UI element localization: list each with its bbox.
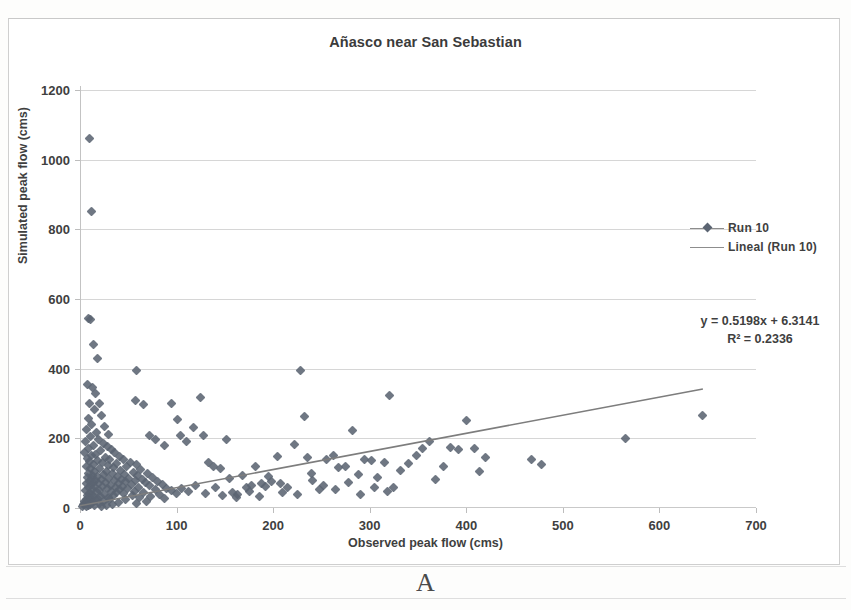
gridline-y <box>80 229 756 230</box>
scatter-point <box>331 484 341 494</box>
tick-x <box>756 508 757 513</box>
y-tick-label: 1000 <box>41 152 70 167</box>
tick-y <box>75 369 80 370</box>
tick-x <box>273 508 274 513</box>
scatter-point <box>167 399 177 409</box>
x-tick-label: 700 <box>745 518 767 533</box>
tick-y <box>75 299 80 300</box>
gridline-y <box>80 90 756 91</box>
scatter-point <box>379 457 389 467</box>
tick-x <box>659 508 660 513</box>
plot-area: 0200400600800100012000100200300400500600… <box>80 90 756 508</box>
scatter-point <box>196 392 206 402</box>
scatter-point <box>454 445 464 455</box>
scatter-point <box>251 462 261 472</box>
legend-item-lineal-run-10[interactable]: Lineal (Run 10) <box>690 237 817 256</box>
scatter-point <box>411 451 421 461</box>
x-axis-title: Observed peak flow (cms) <box>0 536 851 550</box>
scatter-point <box>160 494 170 504</box>
scatter-point <box>201 488 211 498</box>
legend-label-lineal-run-10: Lineal (Run 10) <box>728 240 817 254</box>
scatter-point <box>370 483 380 493</box>
gridline-y <box>80 369 756 370</box>
scan-rule <box>6 598 846 599</box>
scatter-point <box>189 423 199 433</box>
scatter-point <box>303 453 313 463</box>
x-tick-label: 100 <box>166 518 188 533</box>
gridline-y <box>80 160 756 161</box>
scatter-point <box>372 472 382 482</box>
y-tick-label: 200 <box>48 431 70 446</box>
scatter-point <box>210 483 220 493</box>
scatter-point <box>272 451 282 461</box>
scatter-point <box>86 315 96 325</box>
scatter-point <box>85 134 95 144</box>
scatter-point <box>461 416 471 426</box>
y-tick-label: 0 <box>63 501 70 516</box>
tick-x <box>563 508 564 513</box>
x-tick-label: 400 <box>455 518 477 533</box>
scatter-point <box>289 440 299 450</box>
scatter-point <box>222 434 232 444</box>
scatter-point <box>367 456 377 466</box>
scatter-point <box>403 458 413 468</box>
scatter-point <box>353 470 363 480</box>
tick-x <box>370 508 371 513</box>
y-tick-label: 1200 <box>41 83 70 98</box>
tick-x <box>177 508 178 513</box>
scatter-point <box>621 433 631 443</box>
scatter-point <box>92 353 102 363</box>
scatter-point <box>299 412 309 422</box>
scatter-point <box>344 478 354 488</box>
tick-y <box>75 438 80 439</box>
scan-rule <box>6 566 846 567</box>
scatter-point <box>481 453 491 463</box>
scatter-point <box>96 411 106 421</box>
x-tick-label: 600 <box>649 518 671 533</box>
scatter-point <box>225 474 235 484</box>
scatter-point <box>150 435 160 445</box>
x-axis-line <box>80 507 756 508</box>
tick-y <box>75 229 80 230</box>
scatter-point <box>215 464 225 474</box>
scatter-point <box>131 365 141 375</box>
scatter-point <box>218 491 228 501</box>
scatter-point <box>237 471 247 481</box>
gridline-y <box>80 299 756 300</box>
chart-title: Añasco near San Sebastian <box>0 34 851 50</box>
scatter-point <box>341 461 351 471</box>
x-tick-label: 300 <box>359 518 381 533</box>
scatter-point <box>295 365 305 375</box>
scatter-point <box>698 411 708 421</box>
plot-inner: 0200400600800100012000100200300400500600… <box>80 90 756 508</box>
y-tick-label: 800 <box>48 222 70 237</box>
scatter-point <box>87 207 97 217</box>
scatter-point <box>255 491 265 501</box>
tick-x <box>466 508 467 513</box>
tick-y <box>75 90 80 91</box>
legend: Run 10 Lineal (Run 10) <box>690 218 817 256</box>
y-axis-line <box>80 86 81 508</box>
regression-equation-text: y = 0.5198x + 6.3141 <box>676 312 844 330</box>
tick-y <box>75 160 80 161</box>
legend-marker-diamond-icon <box>690 222 724 234</box>
y-tick-label: 400 <box>48 361 70 376</box>
scatter-point <box>475 466 485 476</box>
legend-label-run-10: Run 10 <box>728 221 769 235</box>
legend-line-icon <box>690 241 724 253</box>
scatter-point <box>173 414 183 424</box>
x-tick-label: 500 <box>552 518 574 533</box>
scatter-point <box>347 426 357 436</box>
scatter-point <box>89 339 99 349</box>
scatter-point <box>384 391 394 401</box>
legend-item-run-10[interactable]: Run 10 <box>690 218 817 237</box>
r-squared-text: R² = 0.2336 <box>676 330 844 348</box>
y-tick-label: 600 <box>48 292 70 307</box>
scatter-point <box>307 468 317 478</box>
scatter-point <box>160 441 170 451</box>
scatter-point <box>537 459 547 469</box>
scatter-point <box>292 490 302 500</box>
regression-annotation: y = 0.5198x + 6.3141 R² = 0.2336 <box>676 312 844 348</box>
scatter-point <box>469 443 479 453</box>
x-tick-label: 200 <box>262 518 284 533</box>
